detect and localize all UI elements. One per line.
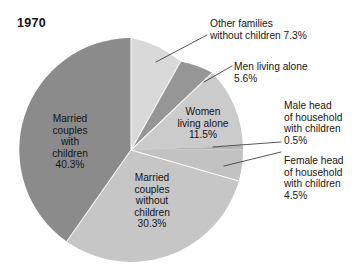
slice-label-female-head-of-household-with-children: Female head of household with children 4…	[284, 155, 352, 201]
slice-label-male-head-of-household-with-children: Male head of household with children 0.5…	[284, 100, 352, 146]
page-title: 1970	[17, 16, 46, 30]
slice-label-married-couples-with-children: Married couples with children 40.3%	[28, 113, 112, 171]
slice-label-women-living-alone: Women living alone 11.5%	[160, 106, 246, 141]
leader-line-other-families	[156, 35, 207, 62]
slice-label-other-families-without-children: Other families without children 7.3%	[210, 18, 350, 41]
slice-label-married-couples-without-children: Married couples without children 30.3%	[108, 172, 196, 230]
pie-chart-figure: 1970 Other families without children 7.3…	[0, 0, 352, 271]
slice-label-men-living-alone: Men living alone 5.6%	[234, 61, 350, 84]
